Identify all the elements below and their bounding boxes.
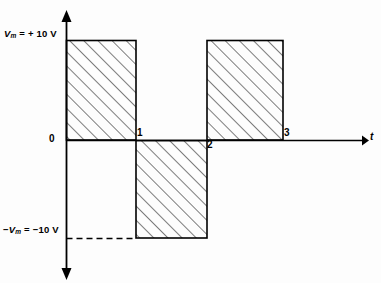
axis-label-tick-3: 3 (284, 128, 290, 138)
time-axis-arrowhead (362, 136, 369, 146)
voltage-axis-arrowhead-down (62, 268, 72, 280)
label-amplitude-positive: Vm = + 10 V (4, 29, 57, 40)
label-amplitude-positive-value: = + 10 V (17, 28, 57, 39)
pulse-area-positive-first (67, 41, 137, 141)
waveform-figure: Vm = + 10 V −Vm = −10 V 0 1 2 3 t (0, 0, 381, 283)
waveform-plot (0, 0, 381, 283)
pulse-area-positive-second (207, 41, 283, 141)
axis-label-tick-2: 2 (207, 140, 213, 150)
axis-label-time: t (370, 132, 373, 142)
voltage-axis-arrowhead-up (62, 10, 72, 22)
pulse-areas (67, 41, 284, 239)
label-amplitude-negative-value: = −10 V (21, 224, 59, 235)
axis-label-origin: 0 (49, 134, 55, 144)
pulse-area-negative (136, 141, 207, 239)
axis-label-tick-1: 1 (137, 128, 143, 138)
label-amplitude-negative: −Vm = −10 V (3, 225, 59, 236)
